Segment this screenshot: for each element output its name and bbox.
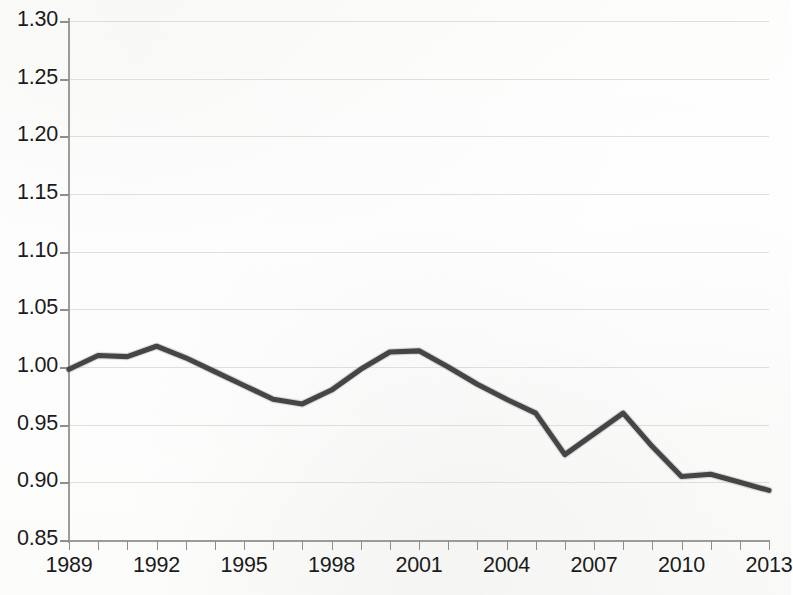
x-axis-tick: [536, 541, 537, 550]
x-axis-tick: [332, 541, 333, 550]
y-axis-tick-label: 0.95: [2, 411, 58, 436]
y-axis-tick: [60, 252, 69, 254]
x-axis-tick: [419, 541, 420, 550]
gridline: [69, 79, 769, 80]
y-axis-tick-label: 1.20: [2, 122, 58, 147]
x-axis-tick: [652, 541, 653, 550]
gridline: [69, 252, 769, 253]
x-axis-tick: [711, 541, 712, 550]
y-axis-tick: [60, 309, 69, 311]
x-axis-tick-label: 2001: [395, 553, 442, 578]
x-axis-tick-label: 2013: [745, 553, 792, 578]
y-axis-tick-label: 1.10: [2, 238, 58, 263]
x-axis-tick-label: 1998: [308, 553, 355, 578]
x-axis-tick: [157, 541, 158, 550]
x-axis-tick: [273, 541, 274, 550]
gridline: [69, 309, 769, 310]
y-axis-tick-label: 0.85: [2, 526, 58, 551]
y-axis-tick: [60, 136, 69, 138]
x-axis-tick: [244, 541, 245, 550]
y-axis-tick-label: 1.30: [2, 7, 58, 32]
x-axis-tick: [361, 541, 362, 550]
x-axis-tick: [448, 541, 449, 550]
gridline: [69, 21, 769, 22]
gridline: [69, 482, 769, 483]
x-axis-tick: [390, 541, 391, 550]
y-axis-tick-labels: 0.850.900.951.001.051.101.151.201.251.30: [0, 0, 58, 595]
y-axis-tick: [60, 367, 69, 369]
x-axis-tick: [186, 541, 187, 550]
x-axis-tick: [127, 541, 128, 550]
y-axis-tick-label: 1.05: [2, 295, 58, 320]
x-axis-tick: [682, 541, 683, 550]
x-axis-tick-label: 2010: [658, 553, 705, 578]
y-axis-tick: [60, 425, 69, 427]
gridline: [69, 136, 769, 137]
x-axis-tick-label: 1992: [133, 553, 180, 578]
x-axis-tick: [565, 541, 566, 550]
x-axis-tick: [69, 541, 70, 550]
y-axis-tick-label: 1.15: [2, 180, 58, 205]
x-axis-tick: [477, 541, 478, 550]
x-axis-tick-label: 2007: [570, 553, 617, 578]
x-axis-tick: [98, 541, 99, 550]
y-axis-tick-label: 0.90: [2, 468, 58, 493]
y-axis-tick: [60, 79, 69, 81]
y-axis-tick-label: 1.25: [2, 65, 58, 90]
x-axis-tick: [623, 541, 624, 550]
y-axis-line: [68, 18, 70, 543]
gridline: [69, 367, 769, 368]
x-axis-tick: [507, 541, 508, 550]
y-axis-tick: [60, 482, 69, 484]
gridline: [69, 425, 769, 426]
x-axis-tick: [215, 541, 216, 550]
x-axis-tick-label: 1995: [220, 553, 267, 578]
y-axis-tick: [60, 194, 69, 196]
y-axis-tick: [60, 21, 69, 23]
x-axis-tick: [769, 541, 770, 550]
x-axis-tick: [740, 541, 741, 550]
x-axis-tick-label: 1989: [45, 553, 92, 578]
y-axis-tick: [60, 540, 69, 542]
x-axis-tick: [302, 541, 303, 550]
y-axis-tick-label: 1.00: [2, 353, 58, 378]
x-axis-tick: [594, 541, 595, 550]
gridline: [69, 194, 769, 195]
x-axis-tick-label: 2004: [483, 553, 530, 578]
